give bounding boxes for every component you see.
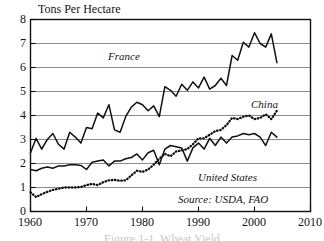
chart-y-tickmarks — [31, 20, 36, 212]
figure-caption-partial: Figure 1-1. Wheat Yield — [0, 233, 324, 241]
chart-gridlines — [31, 44, 311, 188]
chart-plot-area — [0, 0, 324, 241]
chart-figure: Tons Per Hectare 8 7 6 5 4 3 2 1 0 1960 … — [0, 0, 324, 241]
chart-series-group — [31, 33, 277, 197]
series-line-china — [31, 111, 277, 197]
chart-x-tickmarks — [31, 207, 311, 212]
